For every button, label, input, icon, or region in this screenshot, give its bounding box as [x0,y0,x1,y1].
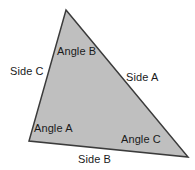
triangle-shape-svg [0,0,195,170]
label-side-c: Side C [10,65,44,78]
triangle-diagram: Angle B Side C Side A Angle A Angle C Si… [0,0,195,170]
label-side-b: Side B [78,153,111,166]
label-angle-b: Angle B [57,45,96,58]
label-angle-a: Angle A [34,122,73,135]
label-side-a: Side A [126,71,158,84]
label-angle-c: Angle C [121,133,161,146]
